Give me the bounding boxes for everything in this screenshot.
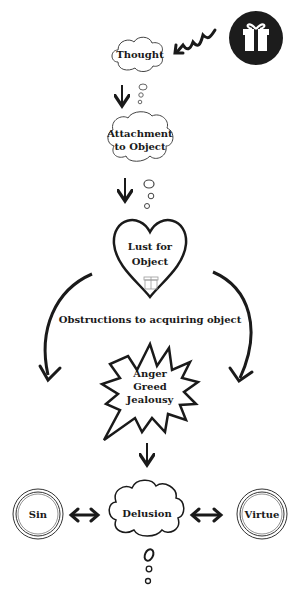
obstructions-label: Obstructions to acquiring object <box>30 314 270 326</box>
node-delusion: Delusion <box>115 508 179 520</box>
emotion-anger: Anger <box>115 368 185 380</box>
node-lust-line2: Object <box>115 256 185 268</box>
node-attachment-line1: Attachment <box>105 128 175 140</box>
emotion-greed: Greed <box>115 381 185 393</box>
emotion-jealousy: Jealousy <box>115 394 185 406</box>
node-attachment-line2: to Object <box>105 141 175 153</box>
flow-diagram <box>0 0 294 595</box>
double-arrow-left <box>71 509 98 521</box>
node-lust-line1: Lust for <box>115 241 185 253</box>
squiggle-arrow <box>177 30 215 52</box>
node-sin: Sin <box>13 509 63 521</box>
node-thought: Thought <box>110 49 170 61</box>
gift-icon <box>229 11 283 65</box>
double-arrow-right <box>192 509 221 521</box>
node-virtue: Virtue <box>237 509 287 521</box>
